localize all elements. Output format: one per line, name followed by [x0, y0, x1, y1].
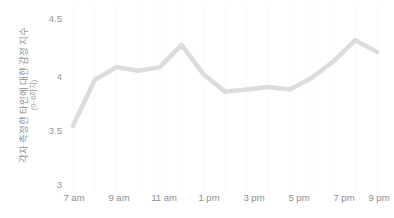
series-plot: [66, 12, 384, 188]
x-tick-label-11am: 11 am: [151, 193, 177, 203]
vertical-gridlines: [73, 2, 377, 192]
plot-area: [66, 12, 384, 188]
y-axis-ticks: 4.5 4 3.5 3: [38, 0, 62, 218]
x-tick-label-7am: 7 am: [63, 193, 84, 203]
x-tick-label-9am: 9 am: [108, 193, 129, 203]
emotion-index-line-chart: 각자 측정한 타인에 대한 감정 지수 (0~6까지) 4.5 4 3.5 3 …: [0, 0, 394, 218]
y-tick-label-3-5: 3.5: [38, 126, 62, 136]
x-tick-label-7pm: 7 pm: [333, 193, 354, 203]
y-axis-title-main: 각자 측정한 타인에 대한 감정 지수: [19, 27, 30, 162]
y-tick-label-3: 3: [38, 180, 62, 190]
y-tick-label-4-5: 4.5: [38, 14, 62, 24]
x-axis-ticks: 7 am 9 am 11 am 1 pm 3 pm 5 pm 7 pm 9 pm: [66, 193, 384, 211]
x-tick-label-9pm: 9 pm: [368, 193, 389, 203]
x-tick-label-5pm: 5 pm: [288, 193, 309, 203]
x-tick-label-3pm: 3 pm: [243, 193, 264, 203]
x-tick-label-1pm: 1 pm: [198, 193, 219, 203]
y-tick-label-4: 4: [38, 72, 62, 82]
